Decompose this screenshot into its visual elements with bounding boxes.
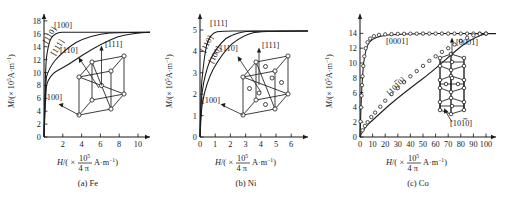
svg-text:1: 1 xyxy=(193,112,197,121)
x-tick-labels-ni: 0 1 2 3 4 5 6 xyxy=(198,140,293,149)
caption-ni: (b) Ni xyxy=(236,178,257,188)
svg-text:4: 4 xyxy=(353,103,358,112)
svg-text:×: × xyxy=(71,158,76,167)
svg-text:3: 3 xyxy=(244,140,248,149)
caption-fe: (a) Fe xyxy=(78,178,98,188)
svg-text:M/(× 105A·m−1): M/(× 105A·m−1) xyxy=(164,54,174,109)
svg-text:10: 10 xyxy=(33,69,41,78)
svg-text:8: 8 xyxy=(117,140,121,149)
svg-text:60: 60 xyxy=(431,140,439,149)
svg-text:10: 10 xyxy=(134,140,142,149)
y-axis-title-fe: M/(× 105A·m−1) xyxy=(6,54,16,109)
svg-text:20: 20 xyxy=(381,140,389,149)
svg-text:6: 6 xyxy=(98,140,102,149)
svg-text:3: 3 xyxy=(193,69,197,78)
chart-fe: 0 2 4 6 8 10 12 14 16 18 2 4 xyxy=(0,0,160,197)
svg-text:4: 4 xyxy=(259,140,264,149)
inset-label-co-1010: [1010] xyxy=(450,119,472,128)
svg-text:100: 100 xyxy=(480,140,492,149)
inset-ni-fcc-cell xyxy=(241,54,290,117)
svg-text:A·m−1): A·m−1) xyxy=(252,157,276,167)
curve-co-0001 xyxy=(360,34,496,137)
svg-text:6: 6 xyxy=(353,89,357,98)
inset-arrow-ni-100 xyxy=(221,103,244,115)
svg-text:105: 105 xyxy=(237,153,248,163)
caption-co: (c) Co xyxy=(407,178,429,188)
curve-label-co-1010-group: [1010] xyxy=(385,75,407,97)
svg-text:8: 8 xyxy=(353,74,357,83)
svg-text:2: 2 xyxy=(37,120,41,129)
y-tick-labels-fe: 0 2 4 6 8 10 12 14 16 18 xyxy=(33,17,42,142)
svg-text:2: 2 xyxy=(61,140,65,149)
svg-text:2: 2 xyxy=(228,140,232,149)
svg-text:4 π: 4 π xyxy=(237,164,248,173)
inset-label-ni-110: [110] xyxy=(220,44,238,53)
svg-text:5: 5 xyxy=(193,26,197,35)
inset-label-co-1010-group: [1010] xyxy=(450,119,472,128)
svg-text:8: 8 xyxy=(37,81,41,90)
svg-text:0: 0 xyxy=(198,140,202,149)
panel-ni: 0 1 2 3 4 5 0 1 2 3 4 xyxy=(160,0,318,197)
svg-text:H/(: H/( xyxy=(56,158,68,167)
y-tick-labels-ni: 0 1 2 3 4 5 xyxy=(193,26,198,142)
x-axis-title-fe: H/( × 105 4 π A·m−1) xyxy=(56,153,118,173)
curve-label-fe-0: [100] xyxy=(54,21,72,30)
svg-text:M/(× 105A·m−1): M/(× 105A·m−1) xyxy=(324,54,334,109)
svg-text:2: 2 xyxy=(353,118,357,127)
svg-text:4 π: 4 π xyxy=(79,164,90,173)
curve-label-co-0001: [0001] xyxy=(386,37,408,46)
y-axis-arrowhead-ni xyxy=(198,14,203,19)
inset-label-fe-100: [100] xyxy=(44,93,62,102)
inset-label-co-0001: [0001] xyxy=(456,38,478,47)
svg-text:H/(: H/( xyxy=(385,158,397,167)
chart-ni: 0 1 2 3 4 5 0 1 2 3 4 xyxy=(160,0,318,197)
svg-text:50: 50 xyxy=(419,140,427,149)
inset-label-fe-110: [110] xyxy=(60,46,78,55)
svg-text:A·m−1): A·m−1) xyxy=(94,157,118,167)
svg-text:1: 1 xyxy=(213,140,217,149)
panel-co: 0 2 4 6 8 10 12 14 xyxy=(318,0,509,197)
inset-label-fe-111: [111] xyxy=(105,40,123,49)
x-tick-labels-fe: 2 4 6 8 10 xyxy=(61,140,142,149)
svg-text:12: 12 xyxy=(349,44,357,53)
inset-arrow-fe-111 xyxy=(99,46,103,86)
x-axis-title-co: H/( × 105 4 π A·m−1) xyxy=(385,153,447,173)
svg-text:4: 4 xyxy=(37,107,42,116)
svg-text:H/(: H/( xyxy=(214,158,226,167)
svg-text:6: 6 xyxy=(37,94,41,103)
y-axis-arrowhead-co xyxy=(358,14,363,19)
svg-text:10: 10 xyxy=(349,59,357,68)
svg-text:12: 12 xyxy=(33,56,41,65)
y-axis-title-co: M/(× 105A·m−1) xyxy=(324,54,334,109)
svg-text:A·m−1): A·m−1) xyxy=(423,157,447,167)
svg-text:0: 0 xyxy=(37,133,41,142)
svg-text:90: 90 xyxy=(469,140,477,149)
panel-fe: 0 2 4 6 8 10 12 14 16 18 2 4 xyxy=(0,0,160,197)
y-axis-arrowhead-fe xyxy=(42,14,47,19)
svg-text:×: × xyxy=(229,158,234,167)
svg-text:0: 0 xyxy=(358,140,362,149)
x-axis-arrowhead-fe xyxy=(145,135,150,140)
inset-co-hcp-cell xyxy=(438,52,466,116)
figure-magnetization-curves: 0 2 4 6 8 10 12 14 16 18 2 4 xyxy=(0,0,509,197)
x-axis-title-ni: H/( × 105 4 π A·m−1) xyxy=(214,153,276,173)
svg-text:16: 16 xyxy=(33,30,41,39)
svg-text:×: × xyxy=(400,158,405,167)
svg-text:14: 14 xyxy=(349,29,358,38)
inset-arrow-fe-100 xyxy=(59,103,80,115)
svg-text:5: 5 xyxy=(274,140,278,149)
curve-label-ni-0: [111] xyxy=(210,19,228,28)
x-axis-arrowhead-ni xyxy=(303,135,308,140)
inset-label-ni-100: [100] xyxy=(202,96,220,105)
svg-text:70: 70 xyxy=(444,140,452,149)
svg-text:105: 105 xyxy=(408,153,419,163)
svg-text:10: 10 xyxy=(368,140,376,149)
svg-text:40: 40 xyxy=(406,140,414,149)
svg-text:0: 0 xyxy=(193,133,197,142)
inset-label-ni-111: [111] xyxy=(262,41,280,50)
svg-text:2: 2 xyxy=(193,90,197,99)
svg-text:18: 18 xyxy=(33,17,41,26)
svg-text:4: 4 xyxy=(80,140,85,149)
y-tick-labels-co: 0 2 4 6 8 10 12 14 xyxy=(349,29,358,142)
chart-co: 0 2 4 6 8 10 12 14 xyxy=(318,0,509,197)
